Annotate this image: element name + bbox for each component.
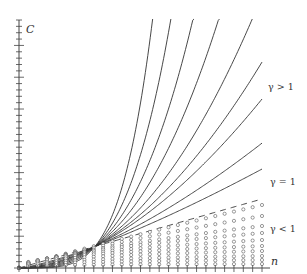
gamma-less-marker xyxy=(186,251,189,254)
gamma-less-marker xyxy=(242,227,245,230)
gamma-less-marker xyxy=(195,233,198,236)
gamma-less-marker xyxy=(242,240,245,243)
gamma-less-marker xyxy=(251,206,254,209)
gamma-less-marker xyxy=(148,242,151,245)
gamma-less-marker xyxy=(204,247,207,250)
gamma-curve xyxy=(19,19,153,268)
gamma-less-marker xyxy=(186,259,189,262)
gamma-less-marker xyxy=(186,247,189,250)
gamma-less-marker xyxy=(195,255,198,258)
gamma-less-marker xyxy=(214,223,217,226)
gamma-less-marker xyxy=(260,214,263,217)
gamma-less-marker xyxy=(232,210,235,213)
gamma-less-marker xyxy=(204,237,207,240)
gamma-less-marker xyxy=(195,219,198,222)
gamma-less-marker xyxy=(223,255,226,258)
gamma-less-marker xyxy=(139,247,142,250)
gamma-less-marker xyxy=(260,254,263,257)
gamma-less-marker xyxy=(176,244,179,247)
gamma-less-marker xyxy=(204,224,207,227)
gamma-less-marker xyxy=(176,239,179,242)
gamma-less-marker xyxy=(251,216,254,219)
gamma-less-marker xyxy=(251,258,254,261)
gamma-less-marker xyxy=(148,235,151,238)
gamma-less-marker xyxy=(167,244,170,247)
gamma-less-marker xyxy=(260,231,263,234)
gamma-less-marker xyxy=(223,241,226,244)
gamma-less-marker xyxy=(176,259,179,262)
gamma-less-marker xyxy=(186,243,189,246)
gamma-less-marker xyxy=(223,250,226,253)
gamma-less-marker xyxy=(120,240,123,243)
gamma-less-marker xyxy=(158,241,161,244)
gamma-less-marker xyxy=(186,221,189,224)
gamma-less-marker xyxy=(186,234,189,237)
gamma-less-marker xyxy=(139,237,142,240)
gamma-less-marker xyxy=(260,203,263,206)
gamma-less-marker xyxy=(232,255,235,258)
gamma-less-marker xyxy=(251,255,254,258)
gamma-less-marker xyxy=(167,256,170,259)
gamma-less-marker xyxy=(148,249,151,252)
gamma-less-marker xyxy=(223,259,226,262)
gamma-less-marker xyxy=(158,252,161,255)
gamma-less-marker xyxy=(214,214,217,217)
chart: C n γ > 1 γ = 1 γ < 1 xyxy=(0,0,307,274)
gamma-less-marker xyxy=(158,245,161,248)
gamma-less-marker xyxy=(251,245,254,248)
gamma-less-marker xyxy=(214,246,217,249)
gamma-curve xyxy=(19,19,194,268)
gamma-less-marker xyxy=(242,218,245,221)
gamma-less-marker xyxy=(232,228,235,231)
gamma-less-marker xyxy=(167,259,170,262)
gamma-less-marker xyxy=(139,253,142,256)
gamma-less-marker xyxy=(204,255,207,258)
gamma-less-marker xyxy=(130,260,133,263)
gamma-less-marker xyxy=(158,228,161,231)
gamma-less-marker xyxy=(176,223,179,226)
gamma-less-marker xyxy=(260,224,263,227)
gamma-less-marker xyxy=(214,251,217,254)
gamma-less-marker xyxy=(214,255,217,258)
gamma-less-marker xyxy=(260,238,263,241)
gamma-greater-label: γ > 1 xyxy=(268,81,294,92)
gamma-less-marker xyxy=(130,238,133,241)
gamma-less-marker xyxy=(214,236,217,239)
gamma-less-marker xyxy=(176,256,179,259)
gamma-less-marker xyxy=(260,244,263,247)
gamma-less-marker xyxy=(186,238,189,241)
gamma-less-marker xyxy=(158,238,161,241)
gamma-less-marker xyxy=(251,239,254,242)
gamma-less-marker xyxy=(232,240,235,243)
gamma-less-marker xyxy=(158,256,161,259)
gamma-equal-label: γ = 1 xyxy=(270,176,296,187)
gamma-less-marker xyxy=(251,232,254,235)
gamma-less-marker xyxy=(223,229,226,232)
gamma-less-marker xyxy=(204,251,207,254)
x-axis-label: n xyxy=(271,255,278,268)
gamma-less-marker xyxy=(242,259,245,262)
gamma-less-marker xyxy=(158,249,161,252)
gamma-less-marker xyxy=(167,231,170,234)
gamma-less-marker xyxy=(242,255,245,258)
gamma-less-marker xyxy=(204,259,207,262)
gamma-less-label: γ < 1 xyxy=(270,223,296,234)
gamma-less-marker xyxy=(176,248,179,251)
gamma-less-marker xyxy=(176,235,179,238)
gamma-less-marker xyxy=(260,258,263,261)
gamma-less-marker xyxy=(139,260,142,263)
gamma-less-marker xyxy=(204,242,207,245)
gamma-less-marker xyxy=(214,259,217,262)
gamma-less-marker xyxy=(232,245,235,248)
gamma-less-marker xyxy=(251,250,254,253)
gamma-less-marker xyxy=(232,259,235,262)
gamma-less-marker xyxy=(232,234,235,237)
gamma-less-marker xyxy=(176,229,179,232)
gamma-less-marker xyxy=(223,235,226,238)
gamma-less-marker xyxy=(195,251,198,254)
gamma-less-marker xyxy=(204,231,207,234)
y-axis-label: C xyxy=(26,23,35,36)
gamma-less-marker xyxy=(130,250,133,253)
gamma-less-marker xyxy=(195,259,198,262)
gamma-less-marker xyxy=(260,249,263,252)
